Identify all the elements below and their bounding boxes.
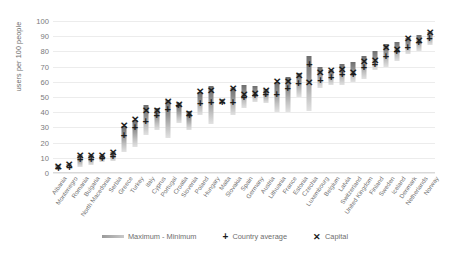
data-column: +✕ (129, 21, 140, 173)
y-axis-tick-label: 10 (41, 153, 49, 162)
data-column: +✕ (140, 21, 151, 173)
y-axis-tick-label: 20 (41, 138, 49, 147)
data-column: +✕ (75, 21, 86, 173)
data-column: +✕ (118, 21, 129, 173)
y-axis-tick-label: 90 (41, 32, 49, 41)
data-column: +✕ (413, 21, 424, 173)
data-column: +✕ (370, 21, 381, 173)
legend-item-range: Maximum - Minimum (102, 232, 197, 241)
data-column: +✕ (304, 21, 315, 173)
data-column: +✕ (53, 21, 64, 173)
data-column: +✕ (293, 21, 304, 173)
chart-container: users per 100 people 0102030405060708090… (0, 0, 450, 262)
data-column: +✕ (217, 21, 228, 173)
data-column: +✕ (162, 21, 173, 173)
data-column: +✕ (173, 21, 184, 173)
data-column: +✕ (424, 21, 435, 173)
plot-area: 0102030405060708090100+✕+✕+✕+✕+✕+✕+✕+✕+✕… (53, 21, 435, 173)
y-axis-tick-label: 50 (41, 93, 49, 102)
legend-label-average: Country average (232, 232, 287, 241)
chart-legend: Maximum - Minimum + Country average ✕ Ca… (0, 232, 450, 241)
range-bar-icon (102, 235, 124, 238)
data-column: +✕ (380, 21, 391, 173)
legend-item-average: + Country average (223, 232, 287, 241)
data-column: +✕ (391, 21, 402, 173)
data-column: +✕ (282, 21, 293, 173)
data-column: +✕ (337, 21, 348, 173)
data-column: +✕ (184, 21, 195, 173)
legend-item-capital: ✕ Capital (313, 232, 348, 241)
data-column: +✕ (64, 21, 75, 173)
data-column: +✕ (249, 21, 260, 173)
data-column: +✕ (108, 21, 119, 173)
y-axis-title: users per 100 people (14, 0, 23, 117)
x-axis-labels: AlbaniaMontenegroRomaniaBulgariaNorth Ma… (53, 175, 435, 223)
data-column: +✕ (348, 21, 359, 173)
y-axis-tick-label: 80 (41, 47, 49, 56)
data-column: +✕ (359, 21, 370, 173)
data-column: +✕ (97, 21, 108, 173)
legend-label-capital: Capital (325, 232, 348, 241)
y-axis-tick-label: 60 (41, 77, 49, 86)
legend-label-range: Maximum - Minimum (128, 232, 197, 241)
data-column: +✕ (402, 21, 413, 173)
data-column: +✕ (271, 21, 282, 173)
y-axis-tick-label: 40 (41, 108, 49, 117)
y-axis-tick-label: 70 (41, 62, 49, 71)
data-column: +✕ (151, 21, 162, 173)
y-axis-tick-label: 100 (36, 17, 49, 26)
data-column: +✕ (195, 21, 206, 173)
data-column: +✕ (239, 21, 250, 173)
data-column: +✕ (315, 21, 326, 173)
data-column: +✕ (86, 21, 97, 173)
data-column: +✕ (326, 21, 337, 173)
y-axis-tick-label: 0 (45, 169, 49, 178)
data-column: +✕ (206, 21, 217, 173)
y-axis-tick-label: 30 (41, 123, 49, 132)
gridline: 0 (53, 173, 435, 174)
data-column: +✕ (260, 21, 271, 173)
data-column: +✕ (228, 21, 239, 173)
